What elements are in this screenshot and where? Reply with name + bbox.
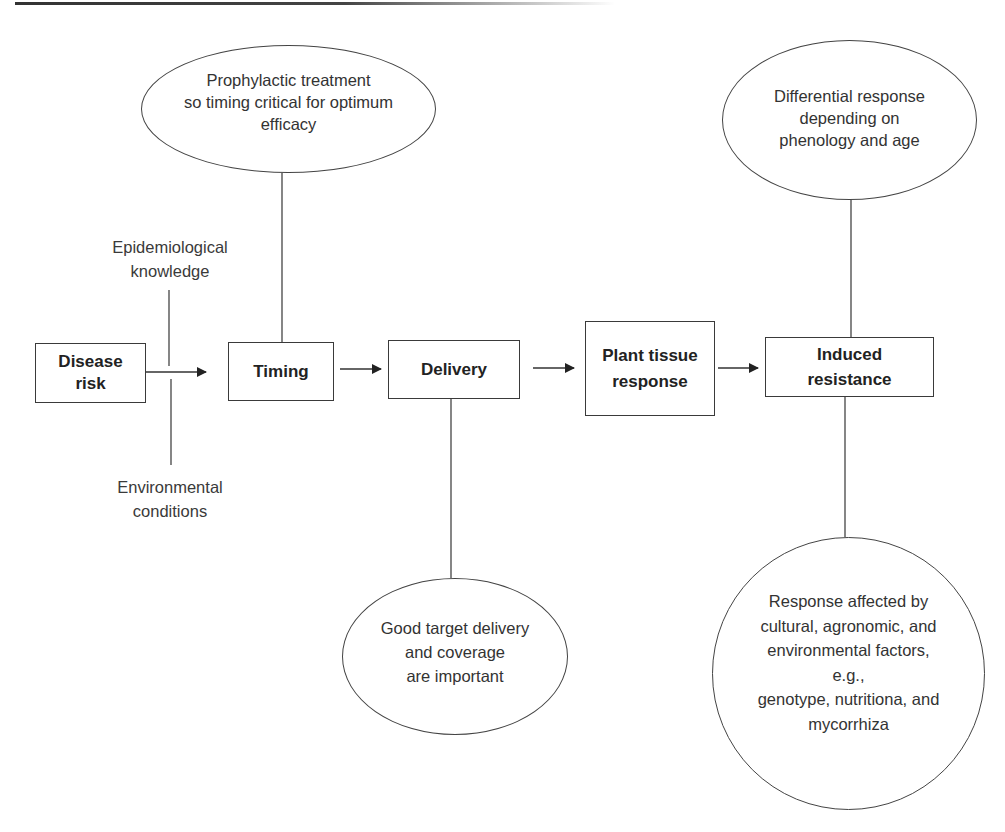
induced-resistance-label: Induced resistance — [807, 342, 891, 392]
resistance-top-note-ellipse: Differential response depending on pheno… — [722, 40, 977, 200]
plant-tissue-response-label: Plant tissue response — [602, 343, 697, 395]
delivery-box: Delivery — [388, 340, 520, 399]
resistance-bottom-note-ellipse: Response affected by cultural, agronomic… — [712, 537, 985, 810]
timing-note-text: Prophylactic treatment so timing critica… — [184, 69, 393, 135]
delivery-note-ellipse: Good target delivery and coverage are im… — [342, 578, 568, 735]
timing-label: Timing — [253, 361, 308, 383]
timing-note-ellipse: Prophylactic treatment so timing critica… — [141, 45, 436, 173]
delivery-label: Delivery — [421, 359, 487, 381]
delivery-note-text: Good target delivery and coverage are im… — [381, 616, 530, 688]
resistance-top-note-text: Differential response depending on pheno… — [774, 85, 925, 151]
resistance-bottom-note-text: Response affected by cultural, agronomic… — [758, 589, 940, 736]
environmental-conditions-label: Environmental conditions — [80, 475, 260, 523]
disease-risk-label: Disease risk — [58, 351, 122, 395]
timing-box: Timing — [228, 342, 334, 401]
plant-tissue-response-box: Plant tissue response — [585, 321, 715, 416]
induced-resistance-box: Induced resistance — [765, 337, 934, 397]
disease-risk-box: Disease risk — [35, 343, 146, 403]
epidemiological-knowledge-label: Epidemiological knowledge — [80, 235, 260, 283]
